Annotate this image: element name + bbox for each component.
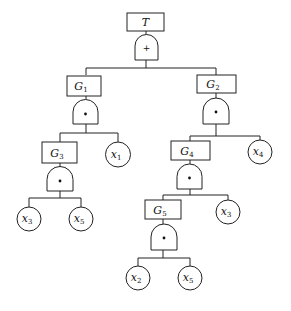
event-box-t[interactable]: T <box>127 13 164 31</box>
and-gate-dot <box>215 111 218 114</box>
event-box-g1[interactable]: G1 <box>67 76 101 96</box>
and-gate-dot <box>188 177 191 180</box>
event-label-g3: G <box>50 147 59 160</box>
event-label-g1: G <box>74 80 83 93</box>
fault-tree-diagram: T + G1 x1 G3 x3 x5 G2 <box>0 0 291 311</box>
basic-event-x1[interactable]: x1 <box>106 142 131 167</box>
basic-event-x4[interactable]: x4 <box>248 140 272 164</box>
and-gate-dot <box>59 180 62 183</box>
and-gate-g2 <box>203 98 229 124</box>
event-box-g2[interactable]: G2 <box>197 75 236 93</box>
basic-event-x3-right[interactable]: x3 <box>216 200 240 224</box>
event-box-g5[interactable]: G5 <box>145 200 181 219</box>
basic-event-x3-left[interactable]: x3 <box>17 207 41 231</box>
and-gate-g5 <box>151 224 177 250</box>
or-gate-t: + <box>135 35 158 61</box>
event-box-g4[interactable]: G4 <box>171 141 210 160</box>
event-label-g2: G <box>206 78 215 91</box>
and-gate-dot <box>84 113 87 116</box>
basic-event-x2[interactable]: x2 <box>126 266 150 290</box>
event-label-g5: G <box>153 204 162 217</box>
basic-event-x5-left[interactable]: x5 <box>69 207 93 231</box>
and-gate-g4 <box>177 164 202 189</box>
and-gate-g1 <box>73 100 98 125</box>
basic-event-x5-right[interactable]: x5 <box>178 266 202 290</box>
event-label-g4: G <box>180 145 189 158</box>
event-box-g3[interactable]: G3 <box>42 142 77 163</box>
and-gate-dot <box>163 237 166 240</box>
and-gate-g3 <box>47 167 73 192</box>
or-gate-symbol: + <box>143 43 151 53</box>
